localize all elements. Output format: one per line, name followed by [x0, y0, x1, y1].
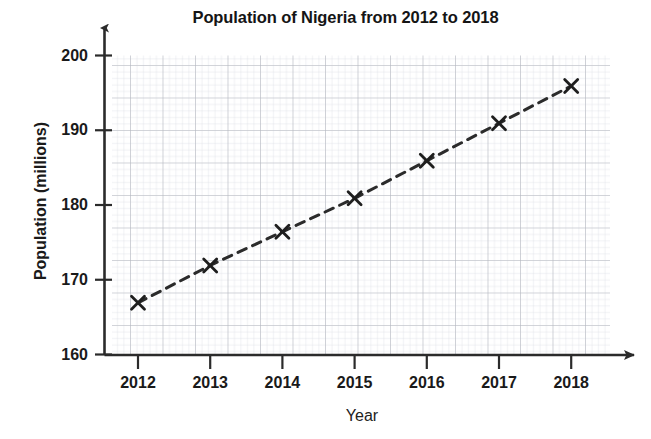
- x-tick-label-2015: 2015: [320, 374, 390, 392]
- x-tick-label-2017: 2017: [464, 374, 534, 392]
- x-tick-label-2016: 2016: [392, 374, 462, 392]
- y-tick-label-200: 200: [26, 47, 88, 65]
- x-axis-ticks: [138, 355, 571, 369]
- y-tick-label-190: 190: [26, 121, 88, 139]
- y-tick-label-170: 170: [26, 271, 88, 289]
- x-tick-label-2014: 2014: [247, 374, 317, 392]
- y-tick-label-180: 180: [26, 196, 88, 214]
- chart-figure: Population of Nigeria from 2012 to 2018 …: [0, 0, 651, 439]
- y-tick-label-160: 160: [26, 346, 88, 364]
- x-tick-label-2013: 2013: [175, 374, 245, 392]
- x-tick-label-2018: 2018: [536, 374, 606, 392]
- x-tick-label-2012: 2012: [103, 374, 173, 392]
